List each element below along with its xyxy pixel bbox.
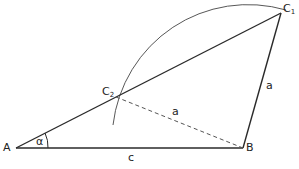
point-b-label: B bbox=[246, 142, 254, 153]
diagram-canvas bbox=[0, 0, 299, 169]
side-a-bc2-dashed bbox=[116, 97, 243, 148]
point-c1-label: C1 bbox=[283, 3, 295, 16]
angle-alpha-label: α bbox=[36, 136, 43, 147]
side-a-solid-label: a bbox=[266, 80, 273, 91]
side-c-label: c bbox=[128, 152, 134, 163]
side-a-dashed-label: a bbox=[172, 106, 179, 117]
side-a-c1 bbox=[16, 13, 281, 148]
angle-alpha-arc bbox=[45, 133, 48, 148]
construction-arc bbox=[113, 5, 286, 125]
side-a-bc1 bbox=[243, 13, 281, 148]
point-a-label: A bbox=[3, 142, 11, 153]
point-c2-label: C2 bbox=[102, 86, 114, 99]
triangle-diagram: A B C1 C2 c a a α bbox=[0, 0, 299, 169]
